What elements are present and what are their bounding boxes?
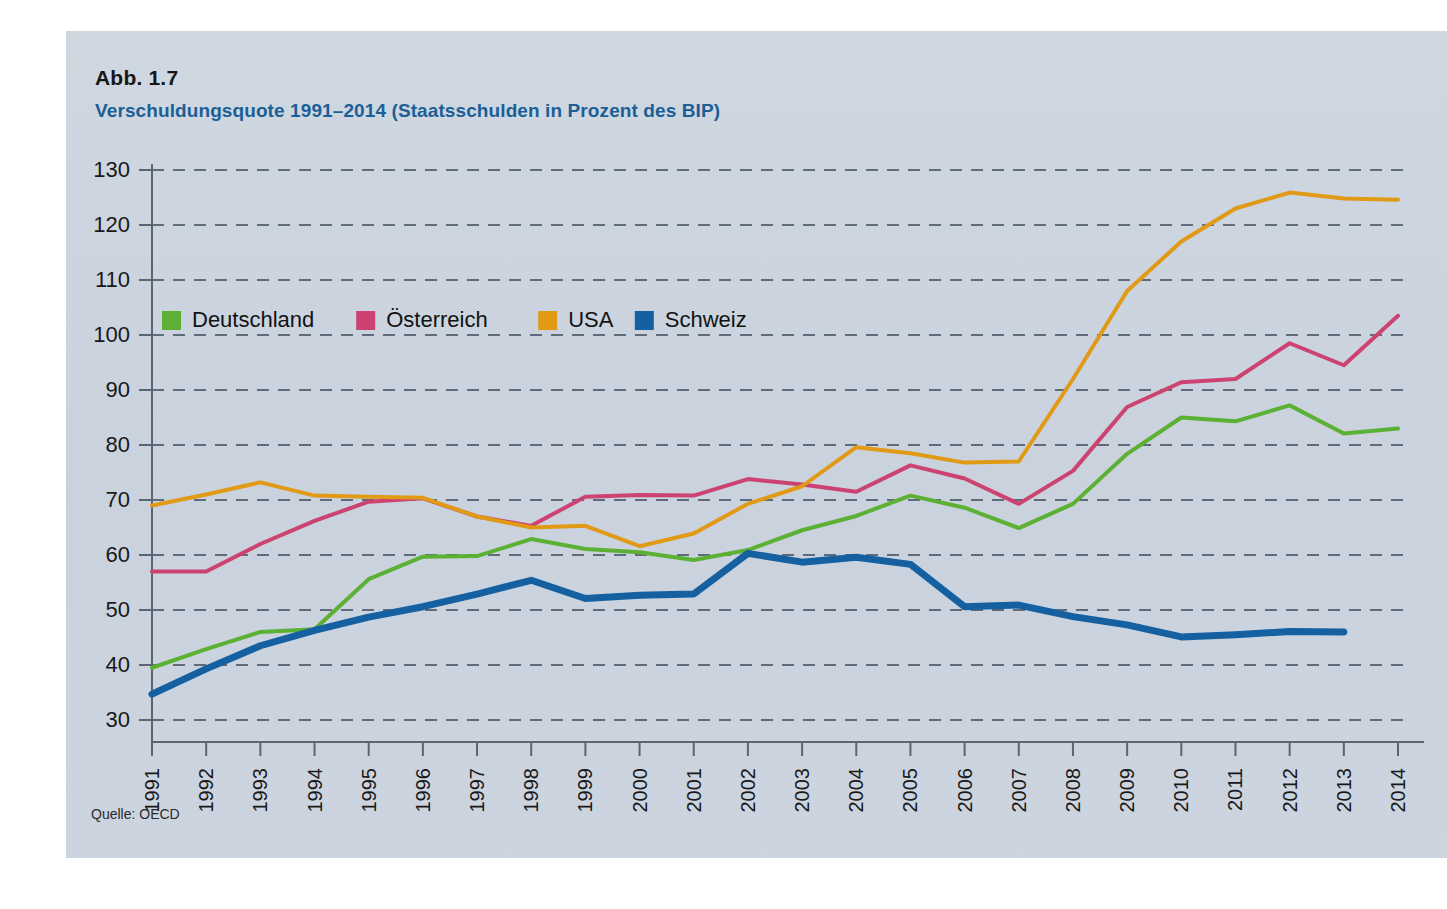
x-axis-tick-label: 2003 bbox=[791, 768, 813, 813]
x-axis-tick-label: 1995 bbox=[358, 768, 380, 813]
x-axis-tick-label: 1999 bbox=[574, 768, 596, 813]
x-axis-tick-label: 1998 bbox=[520, 768, 542, 813]
x-axis-tick-label: 1994 bbox=[304, 768, 326, 813]
y-axis-tick-label: 30 bbox=[106, 707, 130, 732]
x-axis-tick-label: 1996 bbox=[412, 768, 434, 813]
series-line-sterreich bbox=[152, 316, 1398, 572]
x-axis-tick-labels: 1991199219931994199519961997199819992000… bbox=[141, 768, 1409, 813]
y-axis-tick-label: 80 bbox=[106, 432, 130, 457]
chart-plot-area: 30405060708090100110120130 1991199219931… bbox=[66, 31, 1447, 858]
y-axis-tick-label: 120 bbox=[93, 212, 130, 237]
x-axis-tick-label: 2010 bbox=[1170, 768, 1192, 813]
x-axis-tick-label: 2005 bbox=[899, 768, 921, 813]
y-axis-tick-labels: 30405060708090100110120130 bbox=[93, 157, 130, 732]
figure-page: Abb. 1.7 Verschuldungsquote 1991–2014 (S… bbox=[0, 0, 1447, 909]
x-axis-tick-label: 1992 bbox=[195, 768, 217, 813]
legend-label-sterreich: Österreich bbox=[386, 307, 487, 332]
y-axis-tick-label: 50 bbox=[106, 597, 130, 622]
legend-swatch-sterreich bbox=[356, 311, 375, 330]
y-axis-tick-label: 70 bbox=[106, 487, 130, 512]
y-axis-tick-label: 40 bbox=[106, 652, 130, 677]
x-axis-tick-label: 2006 bbox=[954, 768, 976, 813]
x-axis-tick-label: 2013 bbox=[1333, 768, 1355, 813]
y-axis-tick-label: 60 bbox=[106, 542, 130, 567]
legend-label-deutschland: Deutschland bbox=[192, 307, 314, 332]
x-axis-tick-label: 1997 bbox=[466, 768, 488, 813]
legend-swatch-usa bbox=[538, 311, 557, 330]
x-axis-tick-label: 2011 bbox=[1224, 768, 1246, 811]
x-axis-tick-label: 2002 bbox=[737, 768, 759, 813]
x-axis-tick-label: 2004 bbox=[845, 768, 867, 813]
y-axis-tick-label: 130 bbox=[93, 157, 130, 182]
legend-swatch-deutschland bbox=[162, 311, 181, 330]
x-axis-tick-label: 2014 bbox=[1387, 768, 1409, 813]
x-axis-tick-label: 2012 bbox=[1279, 768, 1301, 813]
x-axis-tick-label: 2008 bbox=[1062, 768, 1084, 813]
x-axis-tick-label: 2000 bbox=[629, 768, 651, 813]
legend-label-schweiz: Schweiz bbox=[665, 307, 747, 332]
source-note: Quelle: OECD bbox=[91, 806, 180, 822]
chart-legend: DeutschlandÖsterreichUSASchweiz bbox=[162, 307, 747, 332]
x-axis-tick-label: 2001 bbox=[683, 768, 705, 813]
series-line-usa bbox=[152, 193, 1398, 547]
legend-label-usa: USA bbox=[568, 307, 614, 332]
x-axis-tick-label: 1993 bbox=[249, 768, 271, 813]
y-axis-tick-label: 110 bbox=[95, 267, 130, 292]
axes bbox=[139, 164, 1424, 742]
legend-swatch-schweiz bbox=[635, 311, 654, 330]
x-axis-tick-label: 2007 bbox=[1008, 768, 1030, 813]
data-series bbox=[152, 193, 1398, 695]
y-axis-tick-label: 100 bbox=[93, 322, 130, 347]
series-line-schweiz bbox=[152, 553, 1344, 694]
figure-panel: Abb. 1.7 Verschuldungsquote 1991–2014 (S… bbox=[66, 31, 1447, 858]
y-axis-tick-label: 90 bbox=[106, 377, 130, 402]
x-axis-tick-label: 2009 bbox=[1116, 768, 1138, 813]
x-axis-ticks bbox=[152, 742, 1398, 756]
line-chart: 30405060708090100110120130 1991199219931… bbox=[66, 31, 1447, 858]
